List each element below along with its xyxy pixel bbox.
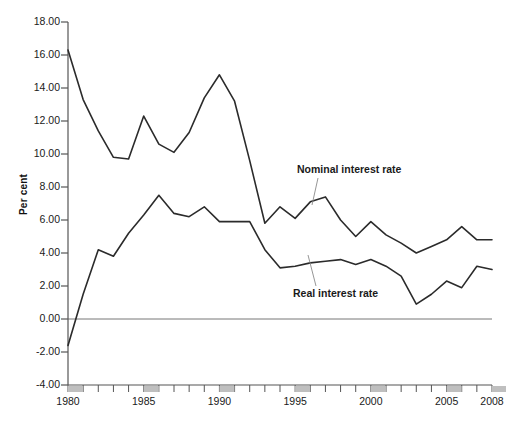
y-axis-tick-label: -4.00 — [8, 378, 60, 390]
x-axis-year-band — [68, 386, 83, 392]
series-line-nominal-interest-rate — [68, 50, 492, 253]
x-axis-year-band — [447, 386, 462, 392]
y-axis-tick-label: 6.00 — [8, 213, 60, 225]
y-axis-tick-label: 18.00 — [8, 15, 60, 27]
y-axis-tick-label: 4.00 — [8, 246, 60, 258]
series-line-real-interest-rate — [68, 195, 492, 345]
interest-rate-chart: Per cent 18.0016.0014.0012.0010.008.006.… — [0, 0, 511, 422]
y-axis-tick-label: 8.00 — [8, 180, 60, 192]
x-axis-tick-label: 2008 — [470, 395, 511, 407]
x-axis-year-band — [295, 386, 310, 392]
y-axis-tick-label: 12.00 — [8, 114, 60, 126]
x-axis-tick-label: 1985 — [122, 395, 166, 407]
y-axis-tick-label: -2.00 — [8, 345, 60, 357]
plot-area — [0, 0, 511, 422]
x-axis-tick-label: 2000 — [349, 395, 393, 407]
x-axis-tick-label: 1980 — [46, 395, 90, 407]
x-axis-tick-label: 1990 — [197, 395, 241, 407]
series-annotation-nominal: Nominal interest rate — [297, 163, 401, 175]
x-axis-tick-label: 2005 — [425, 395, 469, 407]
y-axis-tick-label: 2.00 — [8, 279, 60, 291]
x-axis-year-band — [219, 386, 234, 392]
y-axis-tick-label: 10.00 — [8, 147, 60, 159]
x-axis-tick-label: 1995 — [273, 395, 317, 407]
y-axis-tick-label: 14.00 — [8, 81, 60, 93]
x-axis-year-band — [492, 386, 506, 392]
y-axis-tick-label: 16.00 — [8, 48, 60, 60]
annotation-leader-line — [308, 255, 316, 286]
y-axis-tick-label: 0.00 — [8, 312, 60, 324]
x-axis-year-band — [371, 386, 386, 392]
x-axis-year-band — [144, 386, 159, 392]
series-annotation-real: Real interest rate — [293, 287, 378, 299]
